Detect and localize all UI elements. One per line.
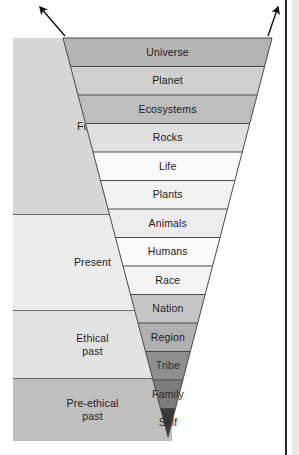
band-nation-label: Nation: [152, 302, 183, 314]
moral-circle-diagram: FuturePresentEthical pastPre-ethical pas…: [0, 0, 299, 455]
page-edge-rule: [285, 0, 287, 455]
band-tribe-label: Tribe: [156, 359, 180, 371]
band-humans-label: Humans: [148, 245, 188, 257]
band-ecosystems-label: Ecosystems: [139, 103, 197, 115]
funnel-svg: UniversePlanetEcosystemsRocksLifePlantsA…: [0, 0, 299, 455]
band-race-label: Race: [155, 274, 180, 286]
arrow-left-up: [40, 7, 65, 36]
direction-arrows: [40, 7, 278, 36]
band-self-label: Self: [159, 416, 178, 428]
band-universe-label: Universe: [146, 46, 189, 58]
band-animals-label: Animals: [149, 217, 187, 229]
band-life-label: Life: [159, 160, 177, 172]
band-family-label: Family: [152, 388, 184, 400]
band-rocks-label: Rocks: [153, 131, 183, 143]
band-region-label: Region: [151, 331, 185, 343]
funnel-wrap: UniversePlanetEcosystemsRocksLifePlantsA…: [0, 0, 299, 455]
band-plants-label: Plants: [153, 188, 183, 200]
arrow-right-up: [268, 7, 278, 36]
page-edge-shadow: [292, 0, 299, 455]
band-planet-label: Planet: [152, 74, 183, 86]
